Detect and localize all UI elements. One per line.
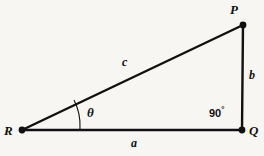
vertex-dot-R [19,127,26,134]
right-triangle-diagram: P Q R a b c θ 90° [0,0,264,156]
vertex-label-Q: Q [249,124,258,137]
side-b-line [242,25,243,130]
theta-angle-label: θ [87,106,94,119]
vertex-label-R: R [4,124,13,137]
vertex-dot-P [240,22,247,29]
vertex-label-P: P [230,3,238,16]
degree-symbol: ° [221,105,224,114]
side-label-b: b [249,69,255,81]
right-angle-value: 90 [209,107,221,119]
vertex-dot-Q [239,127,246,134]
side-label-c: c [122,56,127,68]
triangle-graphic [0,0,264,156]
side-label-a: a [131,137,137,149]
right-angle-label: 90° [209,106,224,119]
